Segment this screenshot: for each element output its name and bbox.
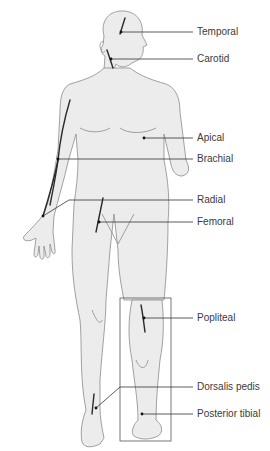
dot-apical <box>143 137 146 140</box>
torso <box>23 68 188 447</box>
label-carotid: Carotid <box>197 53 229 65</box>
dot-carotid <box>110 58 113 61</box>
label-popliteal: Popliteal <box>197 312 235 324</box>
body-figure <box>23 11 188 447</box>
label-dorsalis-pedis: Dorsalis pedis <box>197 381 260 393</box>
dot-posterior-tibial <box>141 413 144 416</box>
dot-femoral <box>98 221 101 224</box>
label-femoral: Femoral <box>197 216 234 228</box>
dot-dorsalis-pedis <box>95 407 98 410</box>
label-temporal: Temporal <box>197 26 238 38</box>
inset-leg <box>129 300 163 439</box>
dot-temporal <box>120 31 123 34</box>
dot-brachial <box>57 158 60 161</box>
label-posterior-tibial: Posterior tibial <box>197 408 260 420</box>
label-brachial: Brachial <box>197 153 233 165</box>
dot-radial <box>42 215 45 218</box>
label-apical: Apical <box>197 132 224 144</box>
dot-popliteal <box>143 317 146 320</box>
label-radial: Radial <box>197 194 225 206</box>
